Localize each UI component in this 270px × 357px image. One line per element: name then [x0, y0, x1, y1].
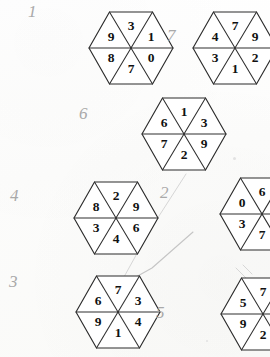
hex-cell-upper-left: 5	[240, 295, 247, 310]
hex-cell-top: 7	[115, 282, 122, 297]
hex-cell-lower-left: 3	[212, 50, 219, 65]
hex-cell-top: 6	[259, 184, 266, 199]
hex-cell-bottom: 7	[128, 61, 135, 76]
hex-cell-lower-right: 4	[135, 314, 142, 329]
worksheet-page: 1 3 1 0 7 8 9 7 7 9	[0, 0, 270, 357]
hex-cell-bottom: 7	[259, 227, 266, 242]
hex-cell-top: 2	[113, 188, 120, 203]
hex-cell-bottom: 2	[260, 327, 267, 342]
pencil-label-hex-mid-right: 2	[160, 183, 169, 203]
hex-cell-lower-left: 9	[95, 314, 102, 329]
hex-cell-upper-right: 9	[133, 199, 140, 214]
pencil-label-hex-bottom-right: 5	[156, 303, 165, 323]
hex-cell-upper-left: 0	[239, 195, 246, 210]
hex-cell-bottom: 1	[115, 325, 122, 340]
hex-cell-lower-right: 2	[252, 50, 259, 65]
hex-cell-lower-left: 7	[161, 136, 168, 151]
hex-cell-bottom: 2	[181, 147, 188, 162]
hex-cell-upper-right: 1	[148, 29, 155, 44]
hex-cell-lower-left: 3	[239, 216, 246, 231]
hexagon-top-left[interactable]: 3 1 0 7 8 9	[88, 10, 174, 86]
hex-cell-lower-right: 0	[148, 50, 155, 65]
hexagon-bottom-right[interactable]: 7 8 6 2 9 5	[220, 276, 270, 352]
hex-cell-upper-right: 3	[135, 293, 142, 308]
hexagon-middle[interactable]: 1 3 9 2 7 6	[141, 96, 227, 172]
hex-cell-bottom: 4	[113, 231, 120, 246]
hex-cell-lower-right: 6	[133, 220, 140, 235]
paper-speck	[233, 157, 236, 160]
hex-cell-upper-left: 6	[95, 293, 102, 308]
hex-cell-upper-right: 3	[201, 115, 208, 130]
pencil-label-hex-top-left: 1	[28, 2, 37, 22]
paper-speck	[206, 340, 208, 342]
hexagon-mid-left[interactable]: 2 9 6 4 3 8	[73, 180, 159, 256]
hex-cell-top: 1	[181, 104, 188, 119]
pencil-label-hex-mid-left: 4	[10, 186, 19, 206]
hex-cell-top: 7	[260, 284, 267, 299]
hexagon-bottom-left[interactable]: 7 3 4 1 9 6	[75, 274, 161, 350]
hexagon-top-right[interactable]: 7 9 2 1 3 4	[192, 10, 270, 86]
hex-cell-upper-left: 9	[108, 29, 115, 44]
hex-cell-bottom: 1	[232, 61, 239, 76]
pencil-label-hex-bottom-left: 3	[9, 272, 18, 292]
hexagon-mid-right[interactable]: 6 5 9 7 3 0	[219, 176, 270, 252]
hex-cell-upper-left: 6	[161, 115, 168, 130]
hex-cell-top: 7	[232, 18, 239, 33]
hex-cell-lower-left: 3	[93, 220, 100, 235]
hex-cell-lower-right: 9	[201, 136, 208, 151]
hex-cell-top: 3	[128, 18, 135, 33]
hex-cell-lower-left: 9	[240, 316, 247, 331]
hex-cell-upper-left: 4	[212, 29, 219, 44]
hex-cell-upper-right: 9	[252, 29, 259, 44]
hex-cell-lower-left: 8	[108, 50, 115, 65]
hex-cell-upper-left: 8	[93, 199, 100, 214]
pencil-label-hex-top-right: 7	[167, 26, 176, 46]
pencil-label-hex-middle: 6	[79, 104, 88, 124]
